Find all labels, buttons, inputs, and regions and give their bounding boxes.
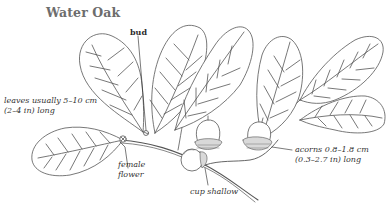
leaves-label: leaves usually 5–10 cm (2–4 in) long	[4, 96, 97, 116]
cup-label: cup shallow	[190, 187, 238, 197]
female-flower	[120, 136, 126, 142]
bud-label: bud	[130, 27, 147, 37]
acorns-label-line-2: (0.3–2.7 in) long	[295, 155, 369, 165]
acorns-label: acorns 0.8–1.8 cm (0.3–2.7 in) long	[295, 145, 369, 165]
leaf-right-upper	[300, 36, 383, 103]
female-flower-label-line-1: female	[118, 160, 145, 170]
leaves-label-line-2: (2–4 in) long	[4, 106, 97, 116]
bud	[144, 131, 149, 136]
figure-title: Water Oak	[46, 5, 120, 20]
leaf-upper-left	[79, 34, 143, 132]
leaf-upper-center	[150, 25, 253, 133]
acorns-label-line-1: acorns 0.8–1.8 cm	[295, 145, 369, 155]
leaves-label-line-1: leaves usually 5–10 cm	[4, 96, 97, 106]
female-flower-label-line-2: flower	[118, 170, 145, 180]
leaf-lower-left	[32, 127, 123, 176]
water-oak-illustration: Water Oak bud leaves usually 5–10 cm (2–…	[0, 0, 388, 213]
acorn-upper	[195, 116, 222, 150]
acorn-lower	[181, 149, 207, 171]
female-flower-label: female flower	[118, 160, 145, 180]
